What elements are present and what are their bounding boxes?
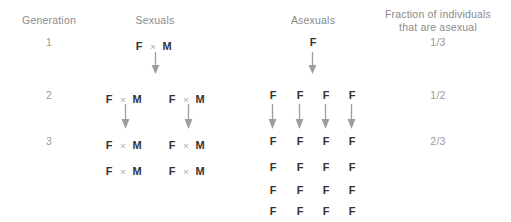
- asexual-female-gen2-3: F: [320, 89, 332, 101]
- asexual-female-gen3-r1c3: F: [320, 135, 332, 147]
- asexual-female-gen2-1: F: [267, 89, 279, 101]
- cross-symbol: ×: [178, 140, 194, 151]
- generation-number-2: 2: [28, 89, 70, 101]
- male-symbol: M: [194, 165, 206, 177]
- asexual-female-gen3-r1c2: F: [294, 135, 306, 147]
- arrow-down-icon: [295, 104, 304, 129]
- female-symbol: F: [133, 40, 145, 52]
- asexual-female-gen3-r3c3: F: [320, 184, 332, 196]
- male-symbol: M: [194, 139, 206, 151]
- asexual-female-gen3-r4c3: F: [320, 205, 332, 217]
- asexual-female-gen3-r2c1: F: [267, 161, 279, 173]
- asexual-female-gen3-r1c4: F: [346, 135, 358, 147]
- arrow-down-icon: [308, 52, 317, 74]
- asexual-female-gen2-4: F: [346, 89, 358, 101]
- asexual-female-gen3-r3c4: F: [346, 184, 358, 196]
- column-header-sexuals: Sexuals: [125, 14, 185, 27]
- fraction-value-generation-2: 1/2: [408, 89, 468, 101]
- male-symbol: M: [131, 139, 143, 151]
- cross-symbol: ×: [145, 41, 161, 52]
- arrow-down-icon: [121, 104, 130, 129]
- asexual-sexual-reproduction-diagram: { "headers": { "generation": "Generation…: [0, 0, 511, 222]
- asexual-female-gen3-r2c3: F: [320, 161, 332, 173]
- arrow-down-icon: [151, 52, 160, 74]
- female-symbol: F: [103, 93, 115, 105]
- column-header-generation: Generation: [13, 14, 85, 27]
- arrow-down-icon: [184, 104, 193, 129]
- arrow-down-icon: [268, 104, 277, 129]
- female-symbol: F: [103, 165, 115, 177]
- sexual-pair-gen3-1: F×M: [103, 135, 143, 153]
- column-header-asexuals: Asexuals: [283, 14, 343, 27]
- sexual-pair-gen3-4: F×M: [166, 161, 206, 179]
- cross-symbol: ×: [115, 166, 131, 177]
- asexual-female-gen1-1: F: [307, 36, 319, 48]
- arrow-down-icon: [347, 104, 356, 129]
- male-symbol: M: [131, 93, 143, 105]
- sexual-pair-gen3-3: F×M: [103, 161, 143, 179]
- generation-number-3: 3: [28, 135, 70, 147]
- arrow-down-icon: [321, 104, 330, 129]
- asexual-female-gen3-r1c1: F: [267, 135, 279, 147]
- male-symbol: M: [194, 93, 206, 105]
- fraction-value-generation-3: 2/3: [408, 135, 468, 147]
- column-header-fraction: Fraction of individuals that are asexual: [373, 8, 503, 33]
- fraction-header-line-1: Fraction of individuals: [385, 8, 491, 20]
- asexual-female-gen3-r3c2: F: [294, 184, 306, 196]
- cross-symbol: ×: [178, 166, 194, 177]
- female-symbol: F: [166, 93, 178, 105]
- male-symbol: M: [161, 40, 173, 52]
- cross-symbol: ×: [115, 140, 131, 151]
- female-symbol: F: [166, 139, 178, 151]
- asexual-female-gen3-r2c4: F: [346, 161, 358, 173]
- asexual-female-gen3-r4c4: F: [346, 205, 358, 217]
- fraction-value-generation-1: 1/3: [408, 36, 468, 48]
- male-symbol: M: [131, 165, 143, 177]
- asexual-female-gen3-r2c2: F: [294, 161, 306, 173]
- asexual-female-gen3-r3c1: F: [267, 184, 279, 196]
- fraction-header-line-2: that are asexual: [399, 21, 477, 33]
- female-symbol: F: [103, 139, 115, 151]
- sexual-pair-gen3-2: F×M: [166, 135, 206, 153]
- generation-number-1: 1: [28, 36, 70, 48]
- asexual-female-gen3-r4c1: F: [267, 205, 279, 217]
- female-symbol: F: [166, 165, 178, 177]
- asexual-female-gen3-r4c2: F: [294, 205, 306, 217]
- asexual-female-gen2-2: F: [294, 89, 306, 101]
